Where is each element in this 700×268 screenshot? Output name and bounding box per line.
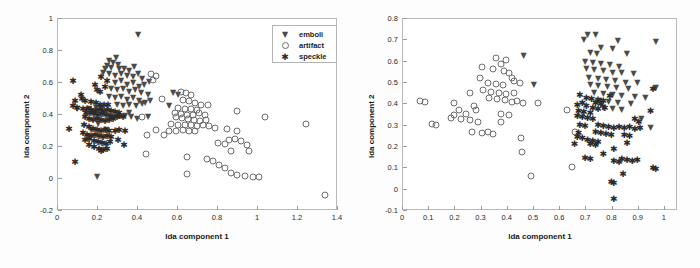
data-point-emboli: ▼: [135, 31, 141, 39]
xtick: [507, 206, 508, 210]
xtick-label: 1: [255, 213, 259, 222]
data-point-speckle: ✱: [606, 92, 614, 100]
data-point-speckle: ✱: [647, 107, 655, 115]
ytick-label: 0.6: [376, 56, 398, 65]
data-point-speckle: ✱: [114, 136, 122, 144]
data-point-artifact: [473, 106, 480, 113]
data-point-speckle: ✱: [121, 127, 129, 135]
data-point-artifact: [457, 116, 464, 123]
xtick-label: 0.4: [132, 213, 142, 222]
data-point-speckle: ✱: [652, 165, 660, 173]
ytick: [58, 82, 62, 83]
data-point-artifact: [222, 140, 229, 147]
xtick-label: 0.7: [580, 213, 590, 222]
data-point-speckle: ✱: [610, 145, 618, 153]
xtick-label: 0.6: [172, 213, 182, 222]
ytick: [58, 210, 62, 211]
data-point-artifact: [485, 80, 492, 87]
xtick: [217, 206, 218, 210]
ytick-label: 0.2: [31, 142, 53, 151]
xtick: [664, 206, 665, 210]
data-point-speckle: ✱: [96, 88, 104, 96]
ytick: [403, 18, 407, 19]
xtick-label: 1: [662, 213, 666, 222]
xtick: [337, 206, 338, 210]
ytick-label: 0.3: [376, 120, 398, 129]
data-point-artifact: [192, 128, 199, 135]
ytick: [403, 61, 407, 62]
right-xaxis-title: lda component 1: [508, 232, 572, 241]
ytick-label: 0.8: [376, 14, 398, 23]
data-point-artifact: [139, 114, 146, 121]
ytick: [403, 82, 407, 83]
data-point-speckle: ✱: [615, 158, 623, 166]
left-xaxis-title: lda component 1: [165, 232, 229, 241]
data-point-emboli: ▼: [581, 36, 587, 44]
data-point-speckle: ✱: [601, 104, 609, 112]
ytick-label: -0.1: [376, 206, 398, 215]
xtick-label: 1.2: [292, 213, 302, 222]
data-point-artifact: [469, 129, 476, 136]
data-point-artifact: [466, 89, 473, 96]
ytick-label: 0: [376, 184, 398, 193]
data-point-artifact: [494, 96, 501, 103]
data-point-artifact: [511, 89, 518, 96]
data-point-speckle: ✱: [69, 77, 77, 85]
data-point-emboli: ▼: [628, 100, 634, 108]
data-point-artifact: [563, 106, 570, 113]
legend-box: ▼ emboli artifact ✱ speckle: [272, 25, 337, 63]
xtick: [297, 206, 298, 210]
ytick: [403, 39, 407, 40]
data-point-artifact: [246, 148, 253, 155]
data-point-emboli: ▼: [531, 81, 537, 89]
data-point-artifact: [262, 114, 269, 121]
data-point-artifact: [234, 108, 241, 115]
right-scatter-panel: ▼▼▼▼▼▼▼▼▼▼▼▼▼▼▼▼▼▼▼▼▼▼▼▼▼▼▼▼▼▼▼▼▼▼▼▼▼▼▼▼…: [350, 0, 700, 268]
ytick-label: 0.5: [376, 78, 398, 87]
data-point-emboli: ▼: [520, 52, 526, 60]
data-point-artifact: [516, 80, 523, 87]
data-point-speckle: ✱: [113, 113, 121, 121]
xtick: [533, 206, 534, 210]
data-point-artifact: [184, 171, 191, 178]
data-point-artifact: [168, 120, 175, 127]
xtick-label: 0.9: [632, 213, 642, 222]
ytick: [403, 167, 407, 168]
data-point-artifact: [490, 66, 497, 73]
data-point-artifact: [173, 128, 180, 135]
data-point-artifact: [448, 115, 455, 122]
ytick-label: 0.8: [31, 46, 53, 55]
xtick: [257, 206, 258, 210]
xtick: [612, 206, 613, 210]
ytick: [403, 103, 407, 104]
data-point-emboli: ▼: [587, 49, 593, 57]
data-point-artifact: [153, 127, 160, 134]
ytick-label: 0.4: [376, 99, 398, 108]
ytick: [58, 18, 62, 19]
data-point-speckle: ✱: [610, 179, 618, 187]
data-point-emboli: ▼: [94, 173, 100, 181]
data-point-artifact: [432, 121, 439, 128]
scatter-plot-figure: ▼▼▼▼▼▼▼▼▼▼▼▼▼▼▼▼▼▼▼▼▼▼▼▼▼▼▼▼▼▼▼▼▼▼▼▼▼▼▼▼…: [0, 0, 700, 268]
data-point-speckle: ✱: [65, 125, 73, 133]
data-point-emboli: ▼: [647, 124, 653, 132]
data-point-artifact: [143, 151, 150, 158]
data-point-emboli: ▼: [615, 37, 621, 45]
xtick: [137, 206, 138, 210]
data-point-artifact: [498, 60, 505, 67]
artifact-marker-icon: [277, 40, 293, 51]
data-point-artifact: [242, 172, 249, 179]
xtick-label: 1.4: [332, 213, 342, 222]
data-point-emboli: ▼: [642, 94, 648, 102]
data-point-artifact: [486, 94, 493, 101]
data-point-artifact: [322, 192, 329, 199]
ytick: [58, 114, 62, 115]
data-point-artifact: [161, 132, 168, 139]
ytick: [58, 178, 62, 179]
right-yaxis-title: lda component 2: [367, 94, 376, 158]
data-point-artifact: [224, 125, 231, 132]
data-point-speckle: ✱: [607, 131, 615, 139]
xtick-label: 0.2: [449, 213, 459, 222]
data-point-artifact: [498, 110, 505, 117]
data-point-artifact: [474, 119, 481, 126]
